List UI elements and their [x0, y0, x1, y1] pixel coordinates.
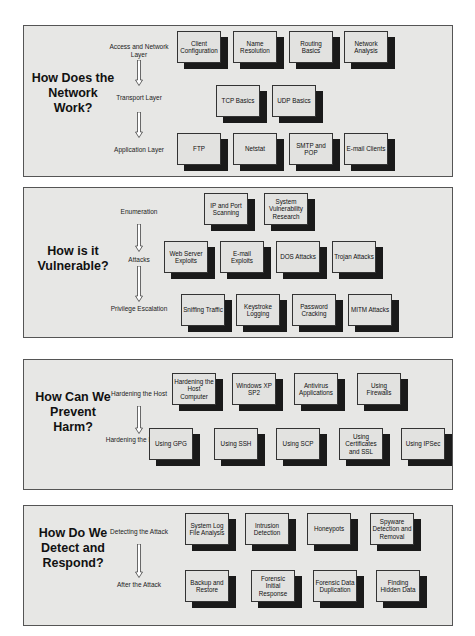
topic-box: DOS Attacks — [276, 241, 320, 273]
topic-box: Windows XP SP2 — [232, 373, 276, 405]
topic-box: Using SSH — [214, 428, 258, 460]
topic-box: Forensic Initial Response — [251, 570, 295, 602]
topic-box: FTP — [177, 133, 221, 165]
down-arrow-icon — [135, 544, 143, 578]
topic-box: Finding Hidden Data — [376, 570, 420, 602]
panel-prevent: How Can We Prevent Harm? Hardening the H… — [23, 359, 453, 490]
topic-box: Sniffing Traffic — [181, 294, 225, 326]
topic-box: Spyware Detection and Removal — [370, 513, 414, 545]
topic-box: Routing Basics — [289, 31, 333, 63]
topic-box: System Log File Analysis — [185, 513, 229, 545]
topic-box: MITM Attacks — [348, 294, 392, 326]
topic-box: Using GPG — [149, 428, 193, 460]
topic-box: Name Resolution — [233, 31, 277, 63]
topic-box: Trojan Attacks — [332, 241, 376, 273]
down-arrow-icon — [135, 112, 143, 138]
stage-label: Detecting the Attack — [104, 528, 174, 536]
topic-box: Client Configuration — [177, 31, 221, 63]
topic-box: Using Firewalls — [357, 373, 401, 405]
topic-box: Honeypots — [307, 513, 351, 545]
stage-label: After the Attack — [104, 581, 174, 589]
topic-box: System Vulnerability Research — [264, 193, 308, 225]
topic-box: IP and Port Scanning — [204, 193, 248, 225]
panel-network: How Does the Network Work? Access and Ne… — [23, 25, 453, 177]
topic-box: Intrusion Detection — [245, 513, 289, 545]
topic-box: E-mail Clients — [344, 133, 388, 165]
stage-label: Hardening the Host — [104, 390, 174, 398]
stage-label: Enumeration — [104, 208, 174, 216]
topic-box: TCP Basics — [216, 85, 260, 117]
stage-label: Privilege Escalation — [104, 305, 174, 313]
panel-detect: How Do We Detect and Respond? Detecting … — [23, 505, 453, 626]
panel-vulnerable: How is it Vulnerable? Enumeration Attack… — [23, 187, 453, 338]
topic-box: Antivirus Applications — [294, 373, 338, 405]
topic-box: Web Server Exploits — [164, 241, 208, 273]
topic-box: UDP Basics — [272, 85, 316, 117]
stage-label: Access and Network Layer — [104, 43, 174, 59]
stage-label: Transport Layer — [104, 94, 174, 102]
topic-box: SMTP and POP — [289, 133, 333, 165]
down-arrow-icon — [135, 266, 143, 302]
down-arrow-icon — [135, 60, 143, 86]
topic-box: Keystroke Logging — [236, 294, 280, 326]
topic-box: Password Cracking — [292, 294, 336, 326]
topic-box: Network Analysis — [344, 31, 388, 63]
topic-box: Netstat — [233, 133, 277, 165]
topic-box: Using SCP — [276, 428, 320, 460]
topic-box: Using IPSec — [401, 428, 445, 460]
topic-box: Backup and Restore — [185, 570, 229, 602]
topic-box: E-mail Exploits — [220, 241, 264, 273]
down-arrow-icon — [135, 224, 143, 252]
topic-box: Forensic Data Duplication — [313, 570, 357, 602]
stage-label: Application Layer — [104, 146, 174, 154]
down-arrow-icon — [135, 406, 143, 434]
topic-box: Using Certificates and SSL — [339, 428, 383, 460]
topic-box: Hardening the Host Computer — [172, 373, 216, 405]
